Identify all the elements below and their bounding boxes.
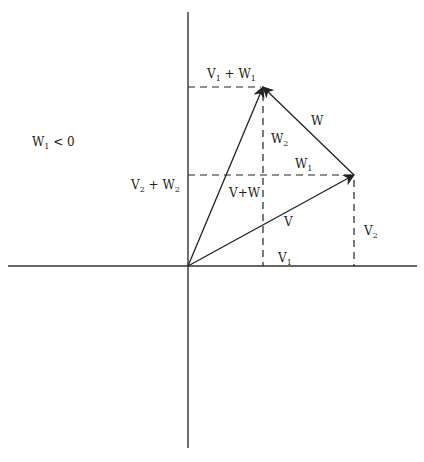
condition-label: W1 < 0 bbox=[32, 135, 75, 151]
vector-v-plus-w-arrow bbox=[188, 87, 263, 266]
vector-addition-diagram: W1 < 0 V1 + W1 V2 + W2 W W2 W1 V+W V V1 … bbox=[0, 0, 424, 462]
v2-label: V2 bbox=[363, 224, 378, 240]
v2-plus-w2-label: V2 + W2 bbox=[130, 178, 180, 194]
v1-plus-w1-label: V1 + W1 bbox=[206, 67, 256, 83]
w2-label: W2 bbox=[271, 132, 288, 148]
v1-label: V1 bbox=[277, 251, 292, 267]
vector-w-arrow bbox=[263, 87, 354, 175]
v-plus-w-label: V+W bbox=[228, 186, 261, 200]
w1-label: W1 bbox=[295, 157, 312, 173]
v-label: V bbox=[283, 215, 293, 229]
w-label: W bbox=[311, 114, 324, 128]
vector-v-arrow bbox=[188, 175, 354, 266]
